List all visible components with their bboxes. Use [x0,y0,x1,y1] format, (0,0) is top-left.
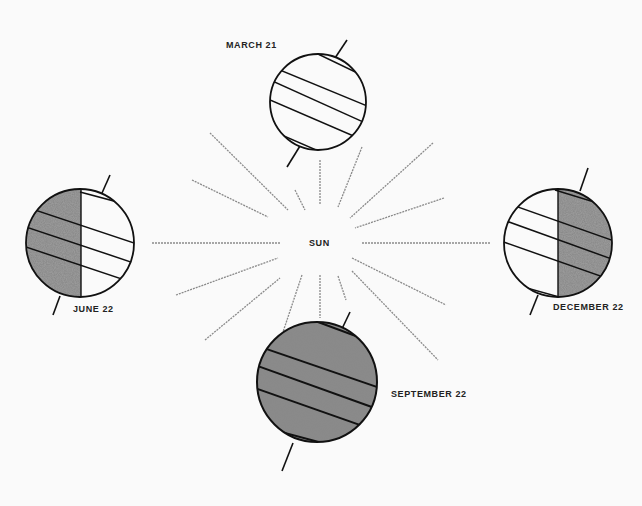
label-march-21: MARCH 21 [226,40,277,50]
globe-march-21 [270,40,372,167]
label-december-22: DECEMBER 22 [553,302,624,312]
globe-september-22 [255,312,380,471]
label-sun: SUN [309,238,330,248]
label-june-22: JUNE 22 [73,304,114,314]
label-september-22: SEPTEMBER 22 [391,389,467,399]
diagram-canvas [0,0,642,506]
globe-december-22 [498,168,620,315]
globe-june-22 [20,175,140,315]
seasons-diagram: MARCH 21 JUNE 22 DECEMBER 22 SEPTEMBER 2… [0,0,642,506]
